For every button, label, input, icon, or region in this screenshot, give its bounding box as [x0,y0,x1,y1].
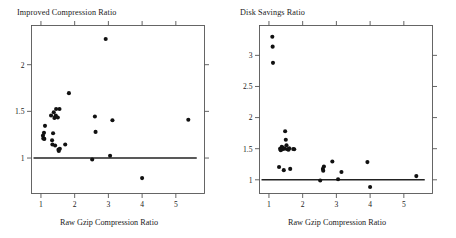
data-point [277,165,281,169]
data-point [53,143,57,147]
data-point [63,142,67,146]
data-point [321,169,325,173]
y-tick-label: 1.5 [243,145,253,154]
data-point [58,147,62,151]
x-tick-label: 2 [73,200,77,209]
x-tick-label: 5 [402,200,406,209]
data-point [336,177,340,181]
y-tick-label: 2 [21,61,25,70]
data-point [283,129,287,133]
x-axis-title-left: Raw Gzip Compression Ratio [14,218,204,228]
x-tick-label: 4 [368,200,372,209]
data-point [284,143,288,147]
x-tick-label: 2 [301,200,305,209]
data-point [414,174,418,178]
data-point [110,118,114,122]
x-tick-label: 1 [39,200,43,209]
data-point [56,115,60,119]
data-point [43,124,47,128]
data-point [271,45,275,49]
plot-area-left: 1234511.52 [0,0,228,238]
data-point [49,114,53,118]
data-point [108,154,112,158]
y-tick-label: 1.5 [15,107,25,116]
data-point [104,37,108,41]
x-tick-label: 5 [174,200,178,209]
x-axis-title-right: Raw Gzip Compression Ratio [242,218,432,228]
scatterplot-figure: Improved Compression Ratio 1234511.52 Ra… [0,0,456,238]
plot-area-right: 1234511.522.53 [228,0,456,238]
x-tick-label: 4 [140,200,144,209]
y-tick-label: 1 [21,154,25,163]
data-point [318,178,322,182]
data-point [287,146,291,150]
x-tick-label: 1 [267,200,271,209]
data-point [50,138,54,142]
data-point [339,170,343,174]
data-point [292,147,296,151]
y-tick-label: 3 [249,51,253,60]
data-point [140,176,144,180]
data-point [330,159,334,163]
x-tick-label: 3 [106,200,110,209]
data-point [93,114,97,118]
data-point [271,61,275,65]
panel-disk-savings-ratio: Disk Savings Ratio 1234511.522.53 Raw Gz… [228,0,456,238]
x-tick-label: 3 [334,200,338,209]
data-point [270,35,274,39]
panel-improved-compression-ratio: Improved Compression Ratio 1234511.52 Ra… [0,0,228,238]
data-point [186,118,190,122]
data-point [42,137,46,141]
plot-frame [260,26,433,194]
data-point [67,91,71,95]
data-point [42,131,46,135]
data-point [288,167,292,171]
data-point [368,185,372,189]
data-point [322,164,326,168]
data-point [57,107,61,111]
y-tick-label: 2 [249,113,253,122]
data-point [94,130,98,134]
y-tick-label: 2.5 [243,82,253,91]
data-point [51,131,55,135]
data-point [365,160,369,164]
data-point [284,138,288,142]
data-point [90,157,94,161]
y-tick-label: 1 [249,176,253,185]
data-point [282,168,286,172]
